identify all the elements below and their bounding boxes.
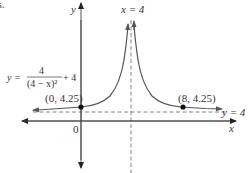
x-axis-label: x — [228, 122, 234, 134]
point-0-4.25 — [78, 104, 83, 109]
graph: y x 0 x = 4 y = 4 (0, 4.25) (8, 4.25) y … — [0, 0, 248, 173]
y-axis-label: y — [70, 3, 76, 15]
point-label-0: (0, 4.25) — [45, 92, 83, 105]
function-label: y = 4 (4 − x)² + 4 — [6, 65, 76, 90]
horizontal-asymptote-label: y = 4 — [221, 106, 246, 118]
vertical-asymptote-label: x = 4 — [120, 3, 145, 15]
svg-text:y =: y = — [6, 72, 21, 83]
svg-text:(4 − x)²: (4 − x)² — [27, 78, 57, 90]
svg-text:+ 4: + 4 — [63, 72, 76, 83]
point-8-4.25 — [180, 104, 185, 109]
origin-label: 0 — [73, 123, 79, 135]
point-label-8: (8, 4.25) — [178, 92, 216, 105]
svg-text:4: 4 — [39, 65, 44, 76]
